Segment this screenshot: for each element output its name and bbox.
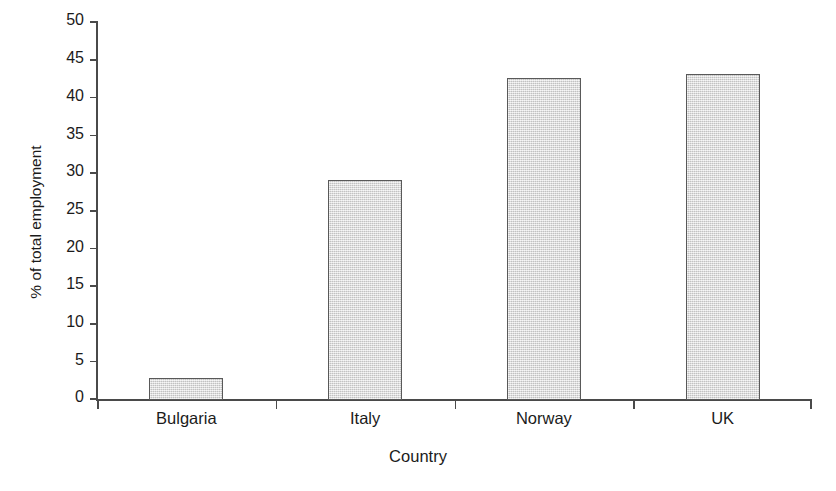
cropped-title-remnant bbox=[128, 0, 348, 5]
y-axis-tick: 15 bbox=[90, 285, 98, 287]
plot-area: 05101520253035404550 bbox=[97, 23, 812, 400]
bar-chart-figure: % of total employment 051015202530354045… bbox=[0, 0, 836, 491]
x-axis-tick bbox=[810, 400, 812, 409]
y-axis-tick-label: 5 bbox=[75, 350, 84, 370]
y-axis-tick: 20 bbox=[90, 248, 98, 250]
y-axis-tick: 45 bbox=[90, 59, 98, 61]
y-axis-tick: 35 bbox=[90, 135, 98, 137]
y-axis-tick: 25 bbox=[90, 210, 98, 212]
bar-italy bbox=[328, 180, 402, 400]
bar-bulgaria bbox=[149, 378, 223, 400]
y-axis-title: % of total employment bbox=[27, 102, 45, 342]
bar-norway bbox=[507, 78, 581, 400]
x-axis-category-label: Norway bbox=[464, 408, 624, 428]
y-axis-tick-label: 30 bbox=[66, 161, 84, 181]
y-axis-tick-label: 40 bbox=[66, 86, 84, 106]
x-axis-tick bbox=[276, 400, 278, 409]
y-axis-tick-label: 50 bbox=[66, 10, 84, 30]
x-axis-tick bbox=[455, 400, 457, 409]
y-axis-tick-label: 10 bbox=[66, 312, 84, 332]
y-axis-tick: 10 bbox=[90, 323, 98, 325]
x-axis-category-label: UK bbox=[643, 408, 803, 428]
x-axis-category-label: Bulgaria bbox=[106, 408, 266, 428]
y-axis-tick-label: 15 bbox=[66, 274, 84, 294]
y-axis-tick-label: 35 bbox=[66, 124, 84, 144]
x-axis-tick bbox=[633, 400, 635, 409]
bar-uk bbox=[686, 74, 760, 400]
y-axis-tick-label: 20 bbox=[66, 237, 84, 257]
y-axis-tick-label: 45 bbox=[66, 48, 84, 68]
x-axis-tick bbox=[97, 400, 99, 409]
y-axis-tick: 5 bbox=[90, 361, 98, 363]
y-axis-tick: 30 bbox=[90, 172, 98, 174]
y-axis-tick: 40 bbox=[90, 97, 98, 99]
y-axis-tick-label: 25 bbox=[66, 199, 84, 219]
y-axis-tick: 50 bbox=[90, 21, 98, 23]
x-axis-category-label: Italy bbox=[285, 408, 445, 428]
x-axis-title: Country bbox=[0, 447, 836, 466]
y-axis-tick-label: 0 bbox=[75, 387, 84, 407]
